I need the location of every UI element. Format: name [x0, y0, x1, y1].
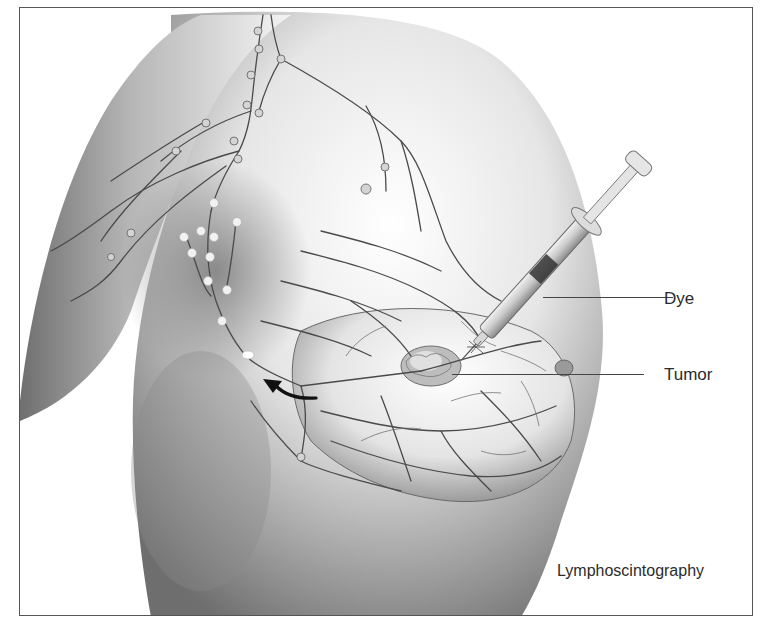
tumor-mass	[401, 346, 461, 386]
tumor-label: Tumor	[664, 366, 713, 383]
dye-leader-line	[543, 297, 673, 298]
dye-label: Dye	[664, 290, 694, 307]
sentinel-node	[242, 351, 254, 359]
lymphatic-illustration	[20, 8, 753, 616]
tumor-leader-line	[452, 374, 644, 375]
illustration-frame: Dye Tumor Lymphoscintography	[19, 7, 753, 616]
figure-caption: Lymphoscintography	[557, 563, 704, 579]
